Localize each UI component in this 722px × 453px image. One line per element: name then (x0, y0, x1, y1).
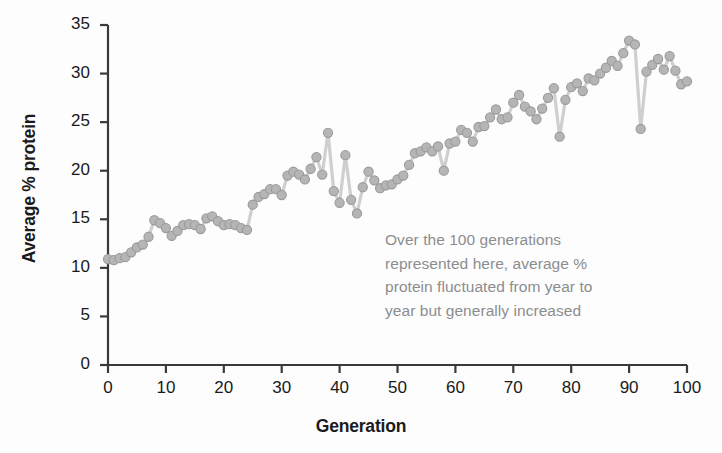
x-tick-label: 0 (85, 378, 131, 398)
x-axis-title: Generation (0, 416, 722, 437)
x-tick-label: 10 (143, 378, 189, 398)
annotation-line: year but generally increased (385, 299, 685, 323)
x-tick-label: 40 (317, 378, 363, 398)
y-tick-label: 35 (46, 14, 90, 34)
annotation-line: represented here, average % (385, 252, 685, 276)
x-tick-label: 90 (606, 378, 652, 398)
y-tick-label: 20 (46, 160, 90, 180)
x-tick-label: 60 (432, 378, 478, 398)
y-tick-label: 0 (46, 354, 90, 374)
y-axis-title: Average % protein (19, 74, 40, 304)
y-tick-label: 30 (46, 63, 90, 83)
x-tick-label: 30 (259, 378, 305, 398)
y-tick-label: 5 (46, 305, 90, 325)
chart-container: Average % protein Generation 05101520253… (0, 0, 722, 453)
y-tick-label: 10 (46, 257, 90, 277)
x-tick-label: 70 (490, 378, 536, 398)
x-tick-label: 20 (201, 378, 247, 398)
trend-note-annotation: Over the 100 generationsrepresented here… (385, 228, 685, 322)
x-tick-label: 80 (548, 378, 594, 398)
y-tick-label: 25 (46, 111, 90, 131)
y-tick-label: 15 (46, 208, 90, 228)
annotation-line: protein fluctuated from year to (385, 275, 685, 299)
x-tick-label: 50 (375, 378, 421, 398)
annotation-line: Over the 100 generations (385, 228, 685, 252)
x-tick-label: 100 (664, 378, 710, 398)
